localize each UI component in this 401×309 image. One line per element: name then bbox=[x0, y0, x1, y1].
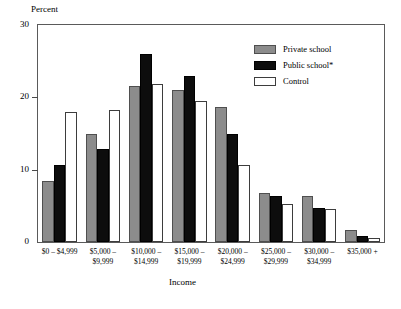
y-axis-title: Percent bbox=[31, 4, 58, 15]
legend-label: Private school bbox=[283, 44, 331, 54]
x-axis-label: $25,000 – $29,999 bbox=[252, 247, 300, 266]
chart-legend: Private schoolPublic school*Control bbox=[254, 42, 333, 90]
y-axis-label: 10 bbox=[5, 165, 29, 174]
x-axis-title: Income bbox=[0, 277, 401, 288]
bar-private bbox=[345, 230, 357, 242]
legend-label: Public school* bbox=[283, 60, 333, 70]
legend-item: Private school bbox=[254, 42, 333, 56]
x-axis-label: $10,000 – $14,999 bbox=[122, 247, 170, 266]
x-axis-label: $15,000 – $19,999 bbox=[165, 247, 213, 266]
legend-swatch-control bbox=[254, 77, 276, 86]
y-axis-label: 30 bbox=[5, 20, 29, 29]
y-axis-label: 20 bbox=[5, 92, 29, 101]
y-axis-label: 0 bbox=[5, 237, 29, 246]
x-axis-label: $20,000 – $24,999 bbox=[209, 247, 257, 266]
x-axis-label: $0 – $4,999 bbox=[36, 247, 84, 257]
legend-item: Control bbox=[254, 74, 333, 88]
bar-control bbox=[368, 238, 380, 242]
legend-swatch-private bbox=[254, 45, 276, 54]
x-axis-title-text: Income bbox=[169, 277, 196, 287]
x-axis-label: $30,000 – $34,999 bbox=[295, 247, 343, 266]
x-axis-label: $5,000 – $9,999 bbox=[79, 247, 127, 266]
legend-label: Control bbox=[283, 76, 309, 86]
legend-swatch-public bbox=[254, 61, 276, 70]
bar-public bbox=[357, 236, 369, 242]
x-axis-label: $35,000 + bbox=[338, 247, 386, 257]
legend-item: Public school* bbox=[254, 58, 333, 72]
